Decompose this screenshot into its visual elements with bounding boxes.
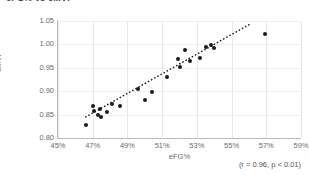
data-point [136,87,140,91]
gridline-horizontal [58,91,301,92]
gridline-horizontal [58,44,301,45]
correlation-annotation: (r = 0.96, p < 0.01) [239,160,301,169]
gridline-vertical [127,21,128,138]
gridline-vertical [93,21,94,138]
data-point [263,32,267,36]
y-tick-label: 1.05 [28,17,54,25]
data-point [204,45,208,49]
data-point [84,123,88,127]
y-tick-label: 0.85 [28,111,54,119]
data-point [92,109,96,113]
scatter-chart-figure: eFG% vs eMVP 0.800.850.900.951.001.05 45… [0,0,309,175]
x-axis-spine [57,138,301,139]
data-point [212,46,216,50]
y-tick-label: 1.00 [28,40,54,48]
data-point [143,98,147,102]
y-axis-spine [57,20,58,139]
data-point [110,102,114,106]
plot-area [58,21,301,138]
data-point [198,56,202,60]
x-tick-label: 59% [281,142,309,150]
gridline-vertical [232,21,233,138]
data-point [165,75,169,79]
data-point [178,65,182,69]
y-axis-title: eMVP [0,52,3,72]
data-point [118,104,122,108]
data-point [99,115,103,119]
data-point [91,104,95,108]
y-tick-label: 0.90 [28,87,54,95]
data-point [105,110,109,114]
gridline-vertical [58,21,59,138]
gridline-vertical [162,21,163,138]
data-point [183,48,187,52]
gridline-vertical [197,21,198,138]
gridline-vertical [266,21,267,138]
data-point [150,90,154,94]
y-tick-label: 0.95 [28,64,54,72]
gridline-horizontal [58,21,301,22]
gridline-vertical [301,21,302,138]
gridline-horizontal [58,115,301,116]
data-point [176,57,180,61]
data-point [188,59,192,63]
data-point [98,107,102,111]
